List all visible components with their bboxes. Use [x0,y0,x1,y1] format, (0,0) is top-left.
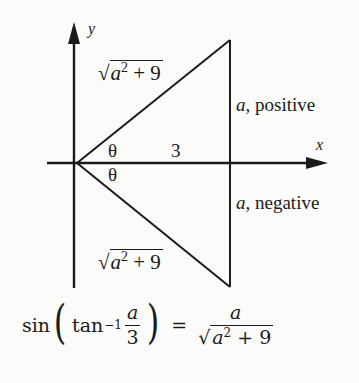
right-paren: ) [147,299,160,345]
y-axis-label: y [88,20,95,38]
y-axis-arrow-icon [68,22,80,44]
x-axis-arrow-icon [306,157,328,169]
sin-function: sin [22,314,50,336]
angle-label-top: θ [108,140,117,162]
hypotenuse-top-label: √a2 + 9 [98,60,163,86]
a-over-3-fraction: a 3 [125,302,140,349]
rhs-fraction: a √a2 + 9 [198,302,273,349]
left-paren: ( [54,299,67,345]
hypotenuse-upper [77,40,230,163]
opposite-positive-label: a, positive [236,94,315,116]
opposite-negative-label: a, negative [236,192,319,214]
trig-diagram: y x √a2 + 9 √a2 + 9 θ θ 3 a, positive a,… [0,0,359,383]
tan-function: tan [72,314,103,336]
identity-formula: sin ( tan−1 a 3 ) = a √a2 + 9 [22,302,276,349]
angle-label-bottom: θ [108,164,117,186]
x-axis-label: x [316,136,323,154]
inverse-exponent: −1 [104,318,122,332]
hypotenuse-bottom-label: √a2 + 9 [98,249,163,275]
equals-sign: = [171,314,187,336]
adjacent-label: 3 [171,140,181,162]
